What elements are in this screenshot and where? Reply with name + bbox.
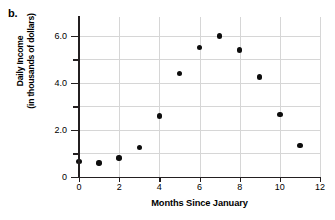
x-axis-tick-label: 4 [157,183,162,192]
y-axis-tick-label: 4.0 [54,78,67,87]
data-point [297,143,302,148]
y-axis-title-line-1: Daily Income [15,36,26,87]
gridline-horizontal [79,59,320,60]
x-axis-tick-label: 10 [275,183,285,192]
y-axis-title: Daily Income (in thousands of dollars) [13,1,39,121]
y-axis-tick-minor [73,106,79,107]
y-axis-tick [71,83,79,84]
x-axis-tick-label: 2 [117,183,122,192]
data-point [116,155,121,160]
gridline-horizontal [79,106,320,107]
gridline-horizontal [79,130,320,131]
x-axis-title: Months Since January [79,198,320,208]
gridline-horizontal [79,36,320,37]
gridline-horizontal [79,153,320,154]
data-point [157,113,162,118]
y-axis-tick-label: 0 [62,173,67,182]
y-axis-title-line-2: (in thousands of dollars) [26,13,37,108]
scatter-plot-figure: b. Daily Income (in thousands of dollars… [0,0,335,220]
data-point [277,112,282,117]
x-axis-tick-label: 0 [76,183,81,192]
y-axis-tick [71,130,79,131]
y-axis-tick-label: 6.0 [54,31,67,40]
data-point [237,47,242,52]
y-axis-tick [71,177,79,178]
y-axis-tick-minor [73,59,79,60]
gridline-horizontal [79,83,320,84]
plot-area [79,17,320,177]
data-point [96,160,101,165]
gridline-vertical [320,17,321,177]
x-axis-tick-label: 12 [315,183,325,192]
data-point [177,71,182,76]
y-axis-tick-label: 2.0 [54,125,67,134]
data-point [217,33,222,38]
data-point [197,45,202,50]
data-point [137,145,142,150]
x-axis-tick-label: 8 [237,183,242,192]
y-axis-tick [71,36,79,37]
data-point [257,74,262,79]
y-axis-tick-minor [73,153,79,154]
x-axis-tick-label: 6 [197,183,202,192]
